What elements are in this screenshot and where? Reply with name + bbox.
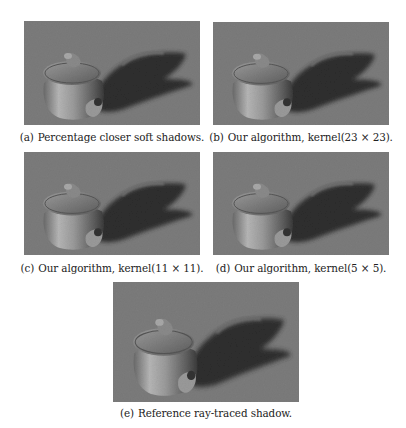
- caption-text: Our algorithm, kernel(11 × 11).: [38, 262, 203, 274]
- caption-c: (c)Our algorithm, kernel(11 × 11).: [12, 262, 212, 274]
- caption-label: (c): [21, 262, 35, 274]
- teapot-render-image-c: [24, 152, 200, 255]
- caption-text: Reference ray-traced shadow.: [138, 407, 292, 419]
- teapot-render-image-b: [213, 22, 389, 125]
- caption-e: (e)Reference ray-traced shadow.: [106, 407, 306, 419]
- caption-label: (a): [20, 131, 34, 143]
- teapot-render-image-a: [24, 21, 200, 125]
- caption-text: Our algorithm, kernel(23 × 23).: [228, 131, 393, 143]
- caption-text: Our algorithm, kernel(5 × 5).: [234, 262, 386, 274]
- caption-d: (d)Our algorithm, kernel(5 × 5).: [201, 262, 401, 274]
- teapot-render-image-d: [213, 152, 389, 255]
- caption-label: (e): [120, 407, 134, 419]
- caption-label: (d): [216, 262, 230, 274]
- teapot-render-image-e: [113, 282, 299, 402]
- caption-text: Percentage closer soft shadows.: [38, 131, 204, 143]
- caption-label: (b): [209, 131, 223, 143]
- caption-b: (b)Our algorithm, kernel(23 × 23).: [201, 131, 401, 143]
- caption-a: (a)Percentage closer soft shadows.: [12, 131, 212, 143]
